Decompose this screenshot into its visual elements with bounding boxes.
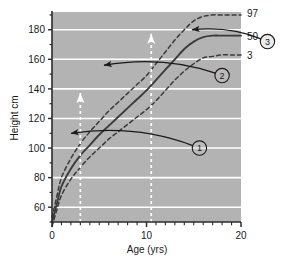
y-tick-label: 100 xyxy=(28,143,45,154)
y-tick-label: 180 xyxy=(28,24,45,35)
x-axis-title: Age (yrs) xyxy=(127,244,168,255)
series-label-97: 97 xyxy=(247,8,259,19)
y-tick-label: 80 xyxy=(34,172,46,183)
callout-number-3: 3 xyxy=(265,37,270,47)
y-tick-label: 60 xyxy=(34,202,46,213)
callout-number-2: 2 xyxy=(220,71,225,81)
chart-canvas: 608010012014016018001020 123 97503 Heigh… xyxy=(0,0,288,259)
growth-chart-figure: 608010012014016018001020 123 97503 Heigh… xyxy=(0,0,288,259)
x-tick-label: 20 xyxy=(235,230,247,241)
y-tick-label: 120 xyxy=(28,113,45,124)
y-axis-title: Height cm xyxy=(9,95,20,140)
x-tick-label: 0 xyxy=(49,230,55,241)
y-tick-label: 160 xyxy=(28,54,45,65)
series-label-3: 3 xyxy=(247,50,253,61)
x-tick-label: 10 xyxy=(141,230,153,241)
callout-number-1: 1 xyxy=(197,143,202,153)
series-label-50: 50 xyxy=(247,31,259,42)
y-tick-label: 140 xyxy=(28,84,45,95)
